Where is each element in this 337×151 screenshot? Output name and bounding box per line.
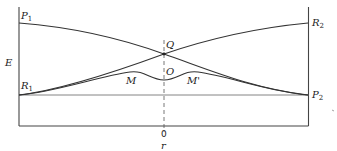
x-axis-label: r: [161, 141, 166, 151]
curve-r1-m-o-mprime-p2: [19, 72, 308, 95]
label-q: Q: [166, 40, 174, 50]
y-axis-label: E: [5, 58, 12, 68]
stray-mark: [332, 110, 334, 111]
label-m-prime: M': [187, 76, 200, 86]
label-p1: P1: [21, 11, 32, 23]
x-tick-zero: 0: [161, 130, 167, 139]
label-r2: R2: [312, 18, 324, 30]
label-r1: R1: [21, 81, 33, 93]
curve-r1-q-r2: [19, 23, 308, 95]
label-o: O: [166, 67, 174, 77]
label-p2: P2: [312, 90, 323, 102]
crossing-point-q: [163, 53, 166, 56]
curve-p1-q-p2: [19, 23, 308, 95]
label-m: M: [126, 76, 136, 86]
